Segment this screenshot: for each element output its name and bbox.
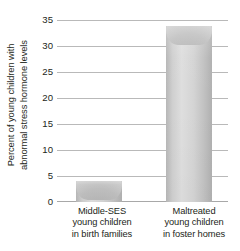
y-axis-tick-labels: 35 30 25 20 15 10 5 0	[34, 0, 55, 251]
category-label-maltreated: Maltreated young children in foster home…	[148, 206, 240, 240]
category-label-line: young children	[57, 217, 147, 228]
bar-middle-ses	[76, 181, 122, 202]
gridline-35	[57, 20, 228, 21]
category-label-line: Middle-SES	[57, 206, 147, 217]
y-tick-label: 15	[42, 119, 53, 129]
y-axis-label-line-1: Percent of young children with	[4, 40, 17, 170]
y-axis-label-line-2: abnormal stress hormone levels	[17, 40, 30, 170]
plot-area	[57, 20, 228, 202]
x-axis-category-labels: Middle-SES young children in birth famil…	[57, 206, 240, 251]
y-tick-label: 5	[48, 171, 53, 181]
bar-cap	[166, 26, 212, 45]
y-tick-label: 30	[42, 41, 53, 51]
bar-cap	[76, 181, 122, 200]
bar-maltreated	[166, 26, 212, 202]
y-tick-label: 20	[42, 93, 53, 103]
bar-sheen	[166, 26, 212, 202]
y-tick-label: 35	[42, 15, 53, 25]
category-label-middle-ses: Middle-SES young children in birth famil…	[57, 206, 147, 240]
y-tick-label: 0	[48, 197, 53, 207]
y-tick-label: 10	[42, 145, 53, 155]
category-label-line: Maltreated	[148, 206, 240, 217]
y-axis-label: Percent of young children with abnormal …	[0, 0, 34, 210]
category-label-line: in birth families	[57, 229, 147, 240]
category-label-line: young children	[148, 217, 240, 228]
category-label-line: in foster homes	[148, 229, 240, 240]
y-tick-label: 25	[42, 67, 53, 77]
bar-sheen	[76, 181, 122, 202]
bar-chart-figure: Percent of young children with abnormal …	[0, 0, 240, 251]
y-axis-label-text: Percent of young children with abnormal …	[4, 40, 30, 170]
